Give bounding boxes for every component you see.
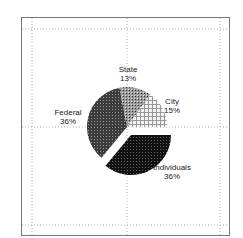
label-individuals-name: Individuals bbox=[153, 163, 191, 172]
pie-chart: State 13% City 15% Federal 36% Individua… bbox=[0, 0, 243, 238]
label-federal-pct: 36% bbox=[60, 117, 76, 126]
label-state-name: State bbox=[119, 65, 138, 74]
label-federal-name: Federal bbox=[54, 108, 81, 117]
label-city-name: City bbox=[165, 97, 179, 106]
label-city-pct: 15% bbox=[164, 106, 180, 115]
label-individuals-pct: 36% bbox=[164, 172, 180, 181]
label-state-pct: 13% bbox=[120, 74, 136, 83]
